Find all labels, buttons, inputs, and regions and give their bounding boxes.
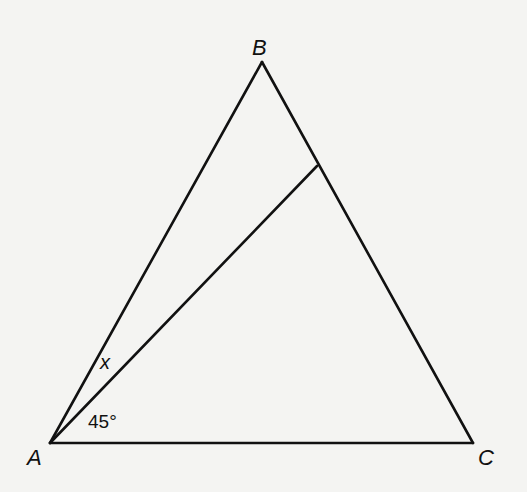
side-ab bbox=[50, 62, 262, 443]
cevian-from-a bbox=[50, 166, 317, 443]
angle-label-45: 45° bbox=[88, 411, 117, 432]
vertex-label-a: A bbox=[25, 445, 42, 470]
vertex-label-c: C bbox=[478, 445, 494, 470]
vertex-label-b: B bbox=[252, 35, 267, 60]
side-bc bbox=[262, 62, 473, 443]
angle-label-x: x bbox=[99, 351, 111, 373]
triangle-diagram: B A C x 45° bbox=[0, 0, 527, 492]
